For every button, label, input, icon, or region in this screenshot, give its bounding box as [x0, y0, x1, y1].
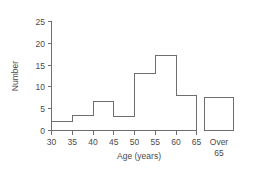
y-axis-ticks — [48, 22, 52, 131]
y-axis-title: Number — [10, 61, 20, 91]
histogram-bar-over65 — [205, 98, 234, 131]
histogram-plot: 0 5 10 15 20 25 30 35 40 45 50 55 60 — [0, 0, 257, 172]
x-axis-ticks — [52, 131, 197, 135]
y-tick-label-0: 0 — [40, 126, 45, 136]
y-tick-label-25: 25 — [36, 17, 46, 27]
x-axis-title: Age (years) — [117, 151, 161, 161]
x-tick-label-over65-line2: 65 — [214, 148, 224, 158]
y-tick-label-20: 20 — [36, 39, 46, 49]
x-tick-label-over65-line1: Over — [210, 137, 229, 147]
y-tick-label-5: 5 — [40, 104, 45, 114]
x-tick-label-65: 65 — [192, 137, 202, 147]
x-tick-label-30: 30 — [47, 137, 57, 147]
histogram-bars-main — [52, 56, 197, 131]
x-tick-label-40: 40 — [88, 137, 98, 147]
x-tick-label-45: 45 — [109, 137, 119, 147]
y-tick-label-15: 15 — [36, 61, 46, 71]
y-axis-tick-labels: 0 5 10 15 20 25 — [36, 17, 46, 136]
x-tick-label-50: 50 — [130, 137, 140, 147]
histogram-figure: 0 5 10 15 20 25 30 35 40 45 50 55 60 — [0, 0, 257, 172]
x-tick-label-55: 55 — [150, 137, 160, 147]
y-tick-label-10: 10 — [36, 82, 46, 92]
x-tick-label-35: 35 — [67, 137, 77, 147]
x-tick-label-60: 60 — [171, 137, 181, 147]
